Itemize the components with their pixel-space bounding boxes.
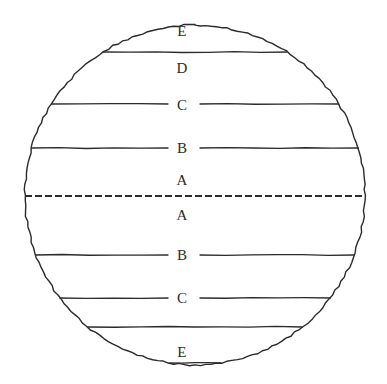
climate-zone-diagram: EDCBAABCE	[0, 0, 387, 384]
latitude-line-a-b-south-left	[36, 255, 168, 256]
zone-label-north-c: C	[177, 98, 187, 113]
latitude-line-a-b-south-right	[200, 255, 354, 256]
latitude-line-c-b-north-left	[32, 148, 168, 149]
zone-label-south-a: A	[176, 208, 187, 223]
latitude-line-c-b-north-right	[200, 148, 358, 149]
zone-label-south-b: B	[177, 248, 187, 263]
zone-label-north-a: A	[176, 173, 187, 188]
latitude-line-e-d-north	[103, 52, 287, 53]
zone-label-north-d: D	[176, 61, 187, 76]
zone-label-north-b: B	[177, 141, 187, 156]
latitude-lines-group	[32, 52, 359, 363]
latitude-line-b-c-south-right	[200, 298, 330, 299]
latitude-line-c-e-south	[88, 326, 302, 327]
globe-svg	[0, 0, 387, 384]
zone-label-north-e: E	[177, 24, 186, 39]
zone-label-south-c: C	[177, 291, 187, 306]
latitude-line-d-c-north-right	[200, 104, 339, 105]
zone-label-south-e: E	[177, 345, 186, 360]
